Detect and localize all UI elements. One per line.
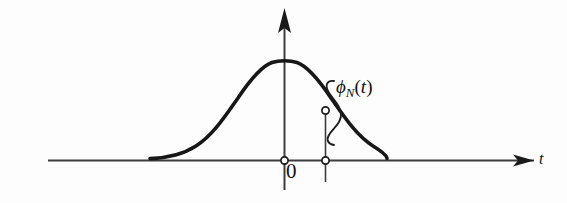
- curve-label-subscript: N: [346, 85, 355, 100]
- curve-label-phi: ϕ: [336, 76, 346, 97]
- plot-svg: [0, 0, 567, 203]
- sample-point-marker-icon: [322, 107, 329, 114]
- figure-canvas: 0 t ϕN(t): [0, 0, 567, 203]
- sample-axis-marker-icon: [322, 157, 329, 164]
- curve-label: ϕN(t): [336, 76, 372, 101]
- x-axis-label: t: [539, 150, 543, 168]
- curve-label-paren-close: ): [366, 76, 372, 97]
- origin-label: 0: [286, 159, 297, 184]
